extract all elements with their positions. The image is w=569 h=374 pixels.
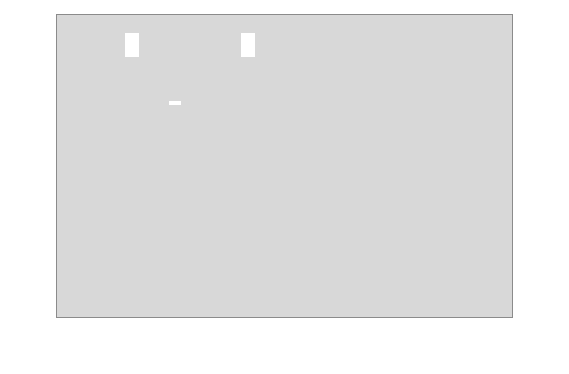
plot-area xyxy=(56,14,513,318)
units-note xyxy=(169,101,181,105)
x-axis-ticks xyxy=(56,322,513,340)
plot-svg xyxy=(57,15,512,317)
stat-box-1975 xyxy=(125,33,139,57)
y-axis-ticks xyxy=(0,14,50,318)
chart-container xyxy=(0,0,569,374)
stat-box-2012 xyxy=(241,33,255,57)
